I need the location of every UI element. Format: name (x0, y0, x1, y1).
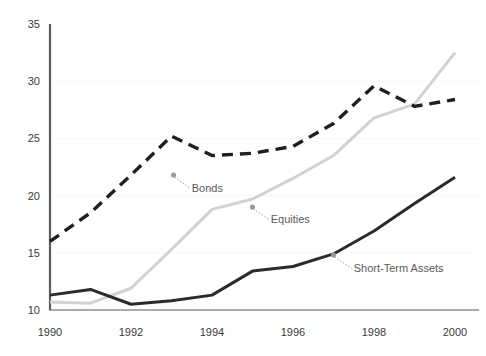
series-label-short-term-assets: Short-Term Assets (354, 262, 444, 274)
y-tick-label: 20 (28, 190, 40, 202)
x-tick-label: 2000 (443, 326, 467, 338)
annotation-leader-line (335, 257, 352, 268)
line-chart: 101520253035 199019921994199619982000 Bo… (0, 0, 486, 356)
x-tick-label: 1996 (281, 326, 305, 338)
series-line-short-term-assets (50, 177, 455, 304)
x-axis-tick-labels: 199019921994199619982000 (38, 326, 467, 338)
annotation-marker-dot (171, 172, 176, 177)
x-tick-label: 1994 (200, 326, 224, 338)
annotation-marker-dot (331, 252, 336, 257)
annotation-leader-line (254, 209, 269, 219)
annotation-leader-line (175, 177, 190, 188)
series-label-bonds: Bonds (192, 182, 224, 194)
chart-container: 101520253035 199019921994199619982000 Bo… (0, 0, 486, 356)
x-tick-label: 1990 (38, 326, 62, 338)
y-tick-label: 10 (28, 304, 40, 316)
y-tick-label: 30 (28, 75, 40, 87)
series-label-equities: Equities (271, 213, 311, 225)
y-axis-tick-labels: 101520253035 (28, 18, 40, 316)
annotation-marker-dot (250, 204, 255, 209)
series-annotations: BondsEquitiesShort-Term Assets (171, 172, 444, 274)
x-tick-label: 1998 (362, 326, 386, 338)
y-tick-label: 25 (28, 132, 40, 144)
x-tick-label: 1992 (119, 326, 143, 338)
y-tick-label: 15 (28, 247, 40, 259)
y-tick-label: 35 (28, 18, 40, 30)
